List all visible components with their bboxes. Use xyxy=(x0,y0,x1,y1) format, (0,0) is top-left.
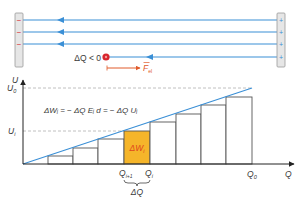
field-lines xyxy=(22,20,279,57)
minus-sign: − xyxy=(17,40,22,49)
bar xyxy=(176,114,201,164)
capacitor-energy-diagram: − − − + + + + ΔQ < 0 Fel xyxy=(0,0,302,197)
q-axis-label: Q xyxy=(285,169,292,179)
q0-label: Q0 xyxy=(247,169,258,180)
qi-plus-1-label: Qi+1 xyxy=(119,168,133,179)
bar xyxy=(98,139,124,164)
minus-sign: − xyxy=(17,28,22,37)
arrow-left-icon xyxy=(57,17,64,23)
bar xyxy=(150,122,176,164)
bar xyxy=(201,105,226,164)
energy-formula: ΔWᵢ = − ΔQ Eᵢ d = − ΔQ Uᵢ xyxy=(43,106,138,115)
qi-label: Qi xyxy=(145,168,154,179)
arrow-left-icon xyxy=(146,54,153,60)
bar xyxy=(48,156,73,164)
bar xyxy=(73,148,98,164)
plus-sign: + xyxy=(279,41,283,48)
capacitor: − − − + + + + ΔQ < 0 Fel xyxy=(15,13,285,74)
charge-highlight xyxy=(105,56,107,58)
negative-plate: − − − xyxy=(15,13,23,67)
plus-sign: + xyxy=(279,29,283,36)
force-label: Fel xyxy=(143,63,152,74)
arrow-left-icon xyxy=(57,29,64,35)
charge-label: ΔQ < 0 xyxy=(74,53,101,63)
delta-w-label: ΔWi xyxy=(129,143,146,154)
delta-q-brace xyxy=(124,180,150,186)
plus-sign: + xyxy=(279,54,283,61)
arrow-left-icon xyxy=(57,41,64,47)
positive-plate: + + + + xyxy=(277,13,285,67)
plus-sign: + xyxy=(279,17,283,24)
bar xyxy=(226,97,252,164)
minus-sign: − xyxy=(17,16,22,25)
delta-q-label: ΔQ xyxy=(130,187,144,197)
u-q-graph: ΔWi U Q U0 Ui Q0 Qi+1 Qi ΔQ ΔWᵢ = − ΔQ E… xyxy=(7,75,294,197)
ui-label: Ui xyxy=(8,126,16,137)
